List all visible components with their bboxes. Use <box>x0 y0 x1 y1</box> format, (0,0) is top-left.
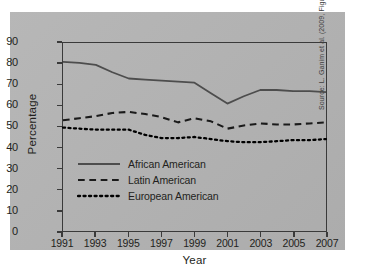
y-axis-label: Percentage <box>26 54 38 194</box>
x-tick-mark <box>161 232 162 237</box>
legend-swatch-solid-icon <box>77 158 121 170</box>
x-tick-mark <box>128 232 129 237</box>
y-tick-label: 70 <box>0 78 18 89</box>
x-tick-label: 1991 <box>45 238 79 249</box>
x-tick-label: 2001 <box>211 238 245 249</box>
x-tick-mark <box>260 232 261 237</box>
x-axis-label: Year <box>62 254 327 266</box>
y-tick-label: 60 <box>0 99 18 110</box>
legend-label: European American <box>128 190 219 202</box>
x-tick-label: 2003 <box>244 238 278 249</box>
legend-item: African American <box>77 156 219 172</box>
legend-label: African American <box>128 158 206 170</box>
x-tick-label: 1995 <box>111 238 145 249</box>
x-tick-label: 1997 <box>144 238 178 249</box>
y-tick-label: 40 <box>0 142 18 153</box>
x-tick-label: 2007 <box>310 238 344 249</box>
y-tick-label: 30 <box>0 163 18 174</box>
legend-swatch-dotted-icon <box>77 190 121 202</box>
y-tick-label: 90 <box>0 36 18 47</box>
series-line <box>63 62 326 104</box>
legend-item: Latin American <box>77 172 219 188</box>
chart-figure: Percentage 0102030405060708090 199119931… <box>0 0 375 266</box>
source-credit: Source: L. Ganim et al. (2009, Figure 2) <box>318 0 325 110</box>
chart-panel: Percentage 0102030405060708090 199119931… <box>10 12 345 250</box>
x-tick-mark <box>61 232 62 237</box>
series-line <box>63 112 326 129</box>
x-tick-mark <box>326 232 327 237</box>
x-tick-mark <box>194 232 195 237</box>
x-tick-label: 1999 <box>178 238 212 249</box>
y-tick-label: 0 <box>0 226 18 237</box>
y-tick-label: 80 <box>0 57 18 68</box>
y-tick-label: 20 <box>0 184 18 195</box>
x-tick-mark <box>227 232 228 237</box>
x-tick-label: 1993 <box>78 238 112 249</box>
y-tick-label: 10 <box>0 205 18 216</box>
y-tick-label: 50 <box>0 120 18 131</box>
legend-swatch-dashed-icon <box>77 174 121 186</box>
x-tick-label: 2005 <box>277 238 311 249</box>
series-line <box>63 128 326 143</box>
legend-item: European American <box>77 188 219 204</box>
x-tick-mark <box>293 232 294 237</box>
chart-legend: African AmericanLatin AmericanEuropean A… <box>77 156 219 204</box>
legend-label: Latin American <box>128 174 196 186</box>
x-tick-mark <box>94 232 95 237</box>
